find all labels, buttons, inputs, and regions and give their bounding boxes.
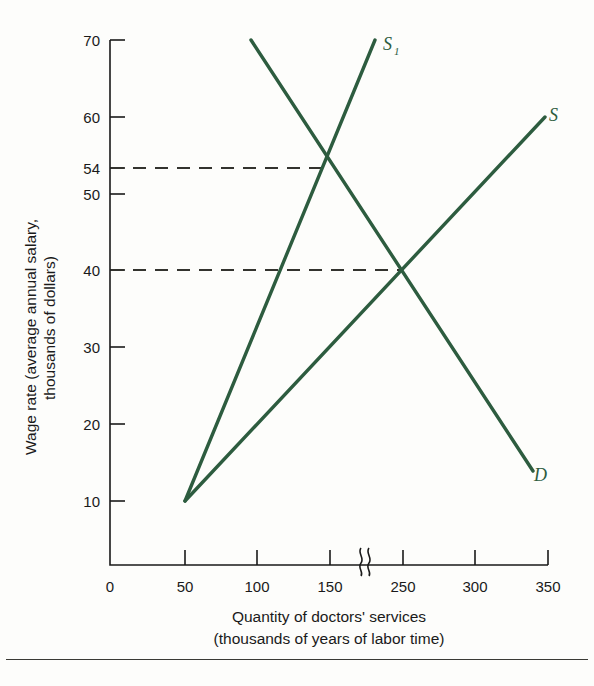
y-tick-label-10: 10 <box>83 493 100 510</box>
x-axis-title-line2: (thousands of years of labor time) <box>214 630 445 647</box>
supply-curve <box>185 117 545 501</box>
demand-curve <box>251 40 533 471</box>
x-tick-label-0: 0 <box>106 578 114 595</box>
curve-label-s1-letter: S <box>383 34 392 54</box>
figure-container: Wage rate (average annual salary, thousa… <box>0 0 594 686</box>
y-tick-label-40: 40 <box>83 262 100 279</box>
restricted-supply-curve <box>185 40 375 501</box>
x-tick-label-50: 50 <box>177 578 194 595</box>
x-tick-label-150: 150 <box>317 578 342 595</box>
axis-lines <box>110 40 548 565</box>
y-tick-label-60: 60 <box>83 109 100 126</box>
x-axis-tick-labels: 0 50 100 150 250 300 350 <box>106 578 561 595</box>
x-axis-title: Quantity of doctors' services (thousands… <box>214 608 445 647</box>
y-axis-title: Wage rate (average annual salary, thousa… <box>22 219 58 455</box>
x-axis-title-line1: Quantity of doctors' services <box>232 608 426 625</box>
axis-break-squiggle <box>360 548 370 576</box>
y-axis-title-line1: Wage rate (average annual salary, <box>22 219 39 455</box>
supply-demand-chart: Wage rate (average annual salary, thousa… <box>0 0 594 686</box>
x-tick-label-350: 350 <box>535 578 560 595</box>
curve-label-s: S <box>549 105 558 125</box>
curve-label-s1: S 1 <box>383 34 400 57</box>
y-tick-label-54: 54 <box>83 160 100 177</box>
curve-label-d: D <box>533 465 547 485</box>
footer-divider <box>6 659 588 660</box>
x-tick-label-300: 300 <box>462 578 487 595</box>
x-axis-ticks <box>185 550 548 565</box>
x-tick-label-100: 100 <box>244 578 269 595</box>
y-axis-tick-labels: 70 60 54 50 40 30 20 10 <box>83 32 100 510</box>
y-axis-title-line2: thousands of dollars) <box>41 256 58 400</box>
curve-label-s1-subscript: 1 <box>394 45 400 57</box>
y-tick-label-50: 50 <box>83 186 100 203</box>
y-tick-label-70: 70 <box>83 32 100 49</box>
y-tick-label-30: 30 <box>83 339 100 356</box>
y-tick-label-20: 20 <box>83 416 100 433</box>
x-tick-label-250: 250 <box>390 578 415 595</box>
